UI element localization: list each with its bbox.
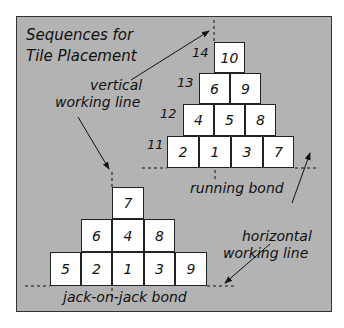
- tile: 2: [81, 252, 112, 286]
- tile: 5: [214, 104, 245, 136]
- tile: 9: [230, 73, 261, 104]
- tile: 5: [50, 252, 81, 286]
- row-label: 13: [177, 75, 194, 90]
- tile: 9: [175, 252, 207, 286]
- jack-bond-label: jack-on-jack bond: [63, 289, 187, 305]
- horizontal-label-2: working line: [223, 245, 308, 261]
- tile: 1: [199, 136, 231, 168]
- tile: 6: [199, 73, 230, 104]
- row-label: 14: [192, 45, 209, 60]
- tile: 3: [144, 252, 175, 286]
- tile: 2: [167, 136, 199, 168]
- title-line1: Sequences for: [26, 26, 133, 44]
- tile: 4: [112, 219, 144, 252]
- vertical-label-1: vertical: [90, 77, 142, 93]
- tile: 8: [144, 219, 175, 252]
- tile: 1: [112, 252, 144, 286]
- horizontal-label-1: horizontal: [242, 228, 312, 244]
- tile: 7: [112, 187, 144, 219]
- row-label: 12: [160, 106, 177, 121]
- running-bond-label: running bond: [190, 180, 284, 196]
- tile: 8: [245, 104, 276, 136]
- tile: 3: [231, 136, 263, 168]
- row-label: 11: [147, 137, 164, 152]
- vertical-label-2: working line: [55, 94, 140, 110]
- tile: 7: [263, 136, 294, 168]
- tile: 10: [214, 42, 245, 73]
- tile: 6: [81, 219, 112, 252]
- tile: 4: [183, 104, 214, 136]
- title-line2: Tile Placement: [26, 47, 137, 65]
